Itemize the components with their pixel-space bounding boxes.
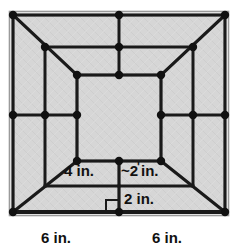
node-outer-top-left	[9, 11, 17, 19]
node-inner-top-mid	[115, 71, 123, 79]
node-inner-top-right	[157, 71, 165, 79]
node-outer-top-right	[221, 11, 229, 19]
node-mid-left-edge	[9, 111, 17, 119]
node-outer-bottom-left	[9, 208, 17, 216]
node-inner-mid-right	[157, 111, 165, 119]
node-ceiling-mid	[115, 43, 123, 51]
dimension-label-6in-left: 6 in.	[41, 230, 71, 245]
node-mid-left-strut	[41, 111, 49, 119]
node-outer-top-mid	[115, 11, 123, 19]
dimension-label-6in-right: 6 in.	[152, 230, 182, 245]
prime-glyph: '	[137, 160, 140, 174]
dimension-label-2in: 2 in.	[124, 191, 154, 206]
node-outer-bottom-mid	[115, 208, 123, 216]
dimension-label-approx-2in: ~2'in.	[121, 163, 158, 178]
tilde-glyph: ~	[121, 162, 130, 179]
dimension-label-4in: 4 in.	[64, 163, 94, 178]
node-inner-mid-left	[73, 111, 81, 119]
node-mid-right-edge	[221, 111, 229, 119]
node-inner-top-left	[73, 71, 81, 79]
perspective-box-figure	[0, 0, 241, 250]
node-ceiling-right	[189, 43, 197, 51]
diagram-canvas: 4 in. ~2'in. 2 in. 6 in. 6 in.	[0, 0, 241, 250]
node-mid-right-strut	[189, 111, 197, 119]
approx-2in-unit: in.	[141, 162, 159, 179]
node-outer-bottom-right	[221, 208, 229, 216]
node-ceiling-left	[41, 43, 49, 51]
